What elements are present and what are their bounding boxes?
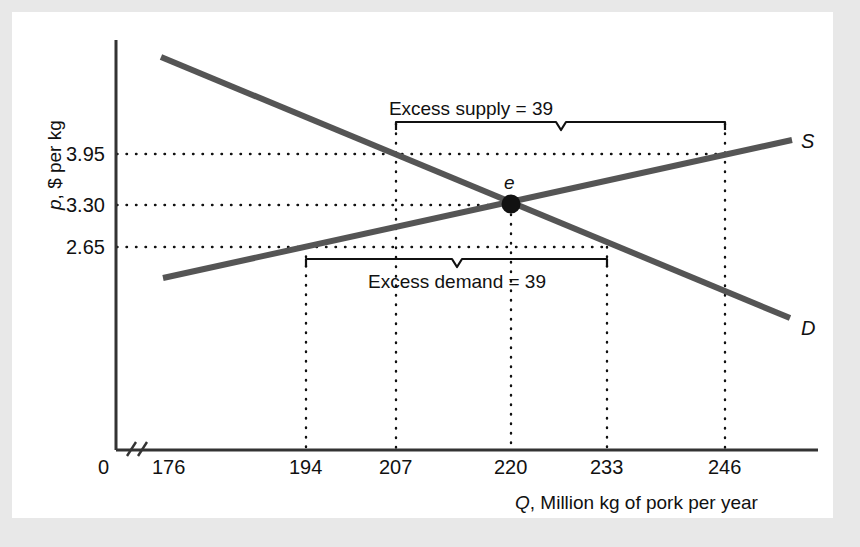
excess-supply-bracket bbox=[396, 122, 725, 130]
equilibrium-point-label: e bbox=[504, 172, 515, 194]
y-axis-title: p, $ per kg bbox=[18, 38, 48, 238]
y-tick-label-330: 3.30 bbox=[66, 194, 105, 217]
x-tick-label-176: 176 bbox=[152, 456, 185, 479]
x-tick-label-233: 233 bbox=[590, 456, 623, 479]
y-axis-title-symbol: p bbox=[44, 199, 65, 210]
x-tick-label-246: 246 bbox=[708, 456, 741, 479]
y-axis-title-units: , $ per kg bbox=[44, 120, 65, 199]
excess-supply-label: Excess supply = 39 bbox=[389, 98, 553, 120]
x-axis-title: Q, Million kg of pork per year bbox=[515, 492, 758, 514]
demand-curve-label: D bbox=[801, 317, 815, 340]
figure-root: p, $ per kg 3.95 3.30 2.65 0 176 194 207… bbox=[0, 0, 860, 547]
x-axis-title-symbol: Q bbox=[515, 492, 530, 513]
excess-demand-label: Excess demand = 39 bbox=[368, 271, 546, 293]
x-tick-label-207: 207 bbox=[379, 456, 412, 479]
supply-curve-label: S bbox=[801, 130, 814, 153]
x-tick-label-220: 220 bbox=[494, 456, 527, 479]
y-tick-label-395: 3.95 bbox=[66, 143, 105, 166]
x-tick-label-194: 194 bbox=[289, 456, 322, 479]
supply-curve bbox=[163, 140, 792, 278]
equilibrium-point bbox=[502, 195, 521, 214]
y-tick-label-265: 2.65 bbox=[66, 236, 105, 259]
x-axis-title-units: , Million kg of pork per year bbox=[530, 492, 758, 513]
excess-demand-bracket bbox=[306, 259, 607, 267]
x-axis-origin-label: 0 bbox=[98, 456, 109, 479]
